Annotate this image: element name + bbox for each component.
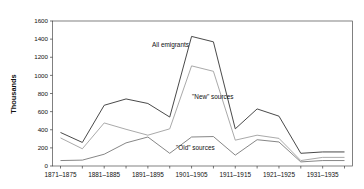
x-tick-label: 1921–1925	[263, 171, 295, 178]
y-tick-label: 400	[38, 126, 49, 133]
x-tick-label: 1871–1875	[45, 171, 77, 178]
x-tick-label: 1901–1905	[176, 171, 208, 178]
series-label-new-sources: "New" sources	[192, 93, 233, 100]
x-tick-label: 1931–1935	[307, 171, 339, 178]
y-tick-label: 1200	[34, 53, 48, 60]
y-tick-label: 1000	[34, 72, 48, 79]
y-tick-label: 1400	[34, 35, 48, 42]
y-tick-label: 200	[38, 144, 49, 151]
emigration-line-chart: 02004006008001000120014001600 1871–18751…	[0, 0, 364, 189]
y-tick-label: 800	[38, 90, 49, 97]
x-axis-tick-labels: 1871–18751881–18851891–18951901–19051911…	[45, 171, 340, 178]
y-axis-ticks	[50, 21, 53, 166]
x-axis-ticks	[61, 166, 345, 169]
series-label-old-sources: "Old" sources	[176, 144, 215, 151]
series-label-all-emigrants: All emigrants	[152, 41, 189, 49]
y-axis-tick-labels: 02004006008001000120014001600	[34, 17, 48, 169]
chart-canvas: 02004006008001000120014001600 1871–18751…	[0, 0, 364, 189]
y-tick-label: 0	[45, 162, 49, 169]
y-tick-label: 600	[38, 108, 49, 115]
x-tick-label: 1881–1885	[88, 171, 120, 178]
x-tick-label: 1891–1895	[132, 171, 164, 178]
y-tick-label: 1600	[34, 17, 48, 24]
x-tick-label: 1911–1915	[220, 171, 252, 178]
y-axis-title: Thousands	[9, 74, 18, 113]
